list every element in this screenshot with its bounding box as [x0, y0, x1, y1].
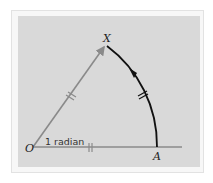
label-point-a: A	[152, 150, 161, 163]
arc-ax	[107, 46, 157, 147]
label-origin: O	[25, 142, 34, 155]
label-angle: 1 radian	[45, 136, 84, 147]
radian-diagram: O A X 1 radian	[0, 0, 213, 183]
label-point-x: X	[102, 32, 112, 45]
